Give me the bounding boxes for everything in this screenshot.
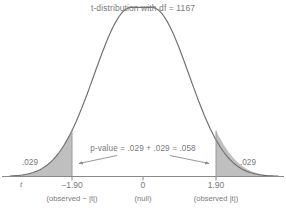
- x-axis-label: t: [20, 181, 22, 189]
- pvalue-annotation: p-value = .029 + .029 = .058: [0, 145, 286, 153]
- tick-label-zero: 0: [141, 181, 146, 190]
- tick-sublabel-positive: (observed |t|): [194, 195, 238, 203]
- tick-sublabel-zero: (null): [135, 195, 152, 203]
- left-tail-area-label: .029: [22, 159, 38, 167]
- tick-sublabel-negative: (observed − |t|): [46, 195, 97, 203]
- tick-label-positive: 1.90: [208, 181, 225, 190]
- chart-title: t-distribution with df = 1167: [0, 4, 286, 13]
- leader-line-left: [79, 156, 117, 164]
- t-distribution-figure: t-distribution with df = 1167 p-value = …: [0, 0, 286, 215]
- tick-label-negative: −1.90: [61, 181, 83, 190]
- leader-line-right: [170, 156, 209, 164]
- right-tail-area-label: .029: [240, 159, 256, 167]
